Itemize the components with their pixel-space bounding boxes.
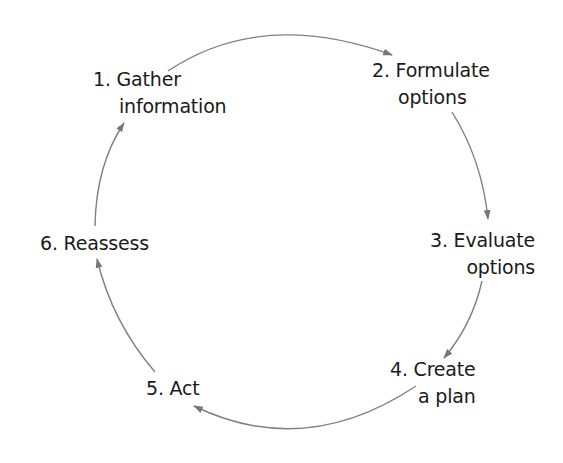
- arrow-6-to-1: [95, 123, 124, 226]
- step-number: 4.: [390, 356, 408, 383]
- step-text: Formulate: [396, 59, 490, 81]
- step-2-formulate-options: 2. Formulate options: [372, 57, 490, 111]
- arrow-2-to-3: [452, 112, 488, 219]
- step-6-reassess: 6. Reassess: [40, 230, 149, 257]
- step-text: Reassess: [64, 232, 149, 254]
- arrow-5-to-6: [97, 259, 155, 372]
- step-number: 2.: [372, 57, 390, 84]
- step-number: 5.: [146, 375, 164, 402]
- step-text: Create: [414, 358, 476, 380]
- step-1-gather-information: 1. Gather information: [93, 66, 226, 120]
- step-text-line2: a plan: [390, 383, 476, 410]
- step-text: Gather: [117, 68, 181, 90]
- step-text-line2: information: [93, 93, 226, 120]
- step-number: 3.: [430, 227, 448, 254]
- step-4-create-plan: 4. Create a plan: [390, 356, 476, 410]
- step-5-act: 5. Act: [146, 375, 200, 402]
- step-number: 1.: [93, 66, 111, 93]
- arrow-3-to-4: [444, 281, 482, 358]
- step-3-evaluate-options: 3. Evaluate options: [430, 227, 535, 281]
- arrow-4-to-5: [194, 386, 416, 429]
- step-text: Evaluate: [454, 229, 535, 251]
- step-text-line2: options: [372, 84, 490, 111]
- step-text: Act: [170, 377, 200, 399]
- step-number: 6.: [40, 230, 58, 257]
- step-text-line2: options: [430, 254, 535, 281]
